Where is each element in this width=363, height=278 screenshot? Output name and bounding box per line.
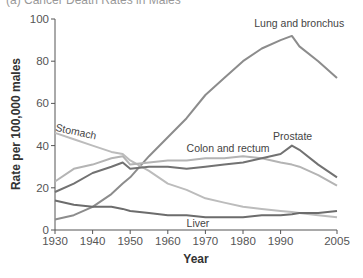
series-labels: Lung and bronchusStomachColon and rectum… [55, 17, 345, 228]
series-label-prostate: Prostate [273, 130, 312, 142]
series-lines [55, 36, 337, 220]
y-tick-label: 80 [36, 55, 49, 67]
series-label-colon-and-rectum: Colon and rectum [187, 142, 270, 154]
series-line-lung-and-bronchus [55, 36, 337, 220]
line-chart: (a) Cancer Death Rates in Males 02040608… [0, 0, 363, 278]
series-label-liver: Liver [187, 217, 210, 229]
x-tick-label: 1950 [117, 235, 143, 247]
y-tick-label: 60 [36, 97, 49, 109]
x-tick-label: 1970 [193, 235, 219, 247]
x-tick-label: 1960 [155, 235, 181, 247]
y-tick-label: 100 [30, 13, 49, 25]
chart-title: (a) Cancer Death Rates in Males [6, 0, 181, 7]
series-label-stomach: Stomach [55, 121, 98, 141]
x-tick-label: 1980 [230, 235, 256, 247]
x-tick-label: 1930 [42, 235, 68, 247]
series-label-lung-and-bronchus: Lung and bronchus [254, 17, 344, 29]
x-tick-label: 2005 [324, 235, 350, 247]
y-tick-label: 20 [36, 182, 49, 194]
x-tick-label: 1940 [80, 235, 106, 247]
y-tick-label: 40 [36, 140, 49, 152]
x-tick-label: 1990 [268, 235, 294, 247]
y-axis-title: Rate per 100,000 males [9, 58, 23, 190]
x-axis-title: Year [183, 252, 209, 266]
